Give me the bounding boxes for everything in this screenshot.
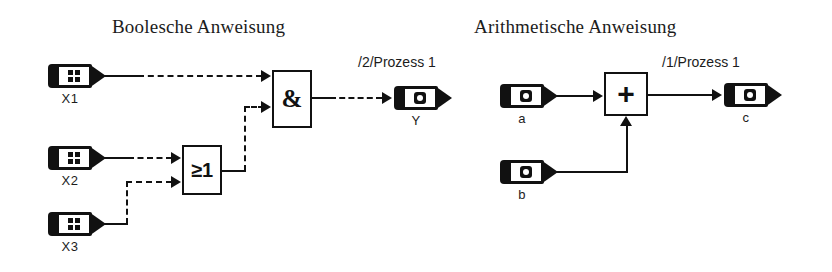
and-gate-block[interactable]: & — [272, 70, 312, 128]
wire-plus-to-c — [648, 94, 714, 96]
add-block[interactable]: + — [604, 72, 648, 116]
input-block-label-x1: X1 — [48, 91, 92, 106]
input-block-body — [48, 64, 92, 88]
wire-x3-stub — [104, 223, 128, 225]
process-tag-c: /1/Prozess 1 — [662, 54, 740, 70]
output-block-label-c: c — [724, 110, 768, 125]
output-block-y[interactable]: Y — [394, 86, 452, 110]
input-block-body — [500, 84, 544, 108]
input-block-x1[interactable]: X1 — [48, 64, 106, 88]
output-block-window — [735, 86, 765, 104]
wire-x1-to-and — [138, 75, 262, 77]
or-gate-block[interactable]: ≥1 — [182, 145, 222, 195]
arrowhead-or-input-1 — [171, 152, 181, 164]
arrowhead-and-input-2 — [261, 101, 271, 113]
or-gate-symbol: ≥1 — [191, 159, 212, 182]
input-block-window — [511, 87, 541, 105]
wire-or-output — [222, 170, 246, 172]
input-block-body — [48, 212, 92, 236]
input-block-x2[interactable]: X2 — [48, 146, 106, 170]
output-block-body — [394, 86, 438, 110]
wire-x2-stub — [104, 157, 130, 159]
grid-icon — [68, 70, 80, 82]
round-icon — [520, 90, 532, 102]
input-block-b[interactable]: b — [500, 160, 558, 184]
input-block-a[interactable]: a — [500, 84, 558, 108]
grid-icon — [68, 218, 80, 230]
wire-b-riser — [626, 126, 628, 172]
wire-x3-riser — [126, 181, 128, 224]
section-title-arithmetic: Arithmetische Anweisung — [474, 16, 677, 38]
round-icon — [744, 89, 756, 101]
arrowhead-and-input-1 — [261, 70, 271, 82]
function-block-diagram-canvas: Boolesche Anweisung Arithmetische Anweis… — [0, 0, 832, 272]
wire-a-to-plus — [556, 95, 594, 97]
input-block-x3[interactable]: X3 — [48, 212, 106, 236]
arrowhead-plus-input-left — [593, 90, 603, 102]
wire-and-to-y — [330, 97, 382, 99]
input-block-window — [59, 67, 89, 85]
arrowhead-plus-input-bottom — [620, 116, 632, 126]
add-block-symbol: + — [617, 82, 635, 106]
round-icon — [414, 92, 426, 104]
wire-or-riser — [244, 106, 246, 171]
output-block-label-y: Y — [394, 113, 438, 128]
arrowhead-y-input — [382, 92, 392, 104]
input-block-window — [511, 163, 541, 181]
input-block-body — [500, 160, 544, 184]
output-block-window — [405, 89, 435, 107]
grid-icon — [68, 152, 80, 164]
input-block-label-x2: X2 — [48, 173, 92, 188]
output-block-c[interactable]: c — [724, 83, 782, 107]
wire-x1-stub — [104, 75, 140, 77]
process-tag-y: /2/Prozess 1 — [358, 54, 436, 70]
and-gate-symbol: & — [282, 85, 303, 113]
input-block-label-x3: X3 — [48, 239, 92, 254]
input-block-window — [59, 215, 89, 233]
input-block-window — [59, 149, 89, 167]
input-block-label-b: b — [500, 187, 544, 202]
arrowhead-c-input — [712, 89, 722, 101]
arrowhead-or-input-2 — [171, 176, 181, 188]
section-title-boolean: Boolesche Anweisung — [112, 16, 285, 38]
round-icon — [520, 166, 532, 178]
output-block-tip — [435, 86, 452, 110]
wire-b-run — [556, 171, 628, 173]
wire-x3-to-or — [126, 181, 172, 183]
input-block-body — [48, 146, 92, 170]
output-block-body — [724, 83, 768, 107]
wire-x2-to-or — [128, 157, 172, 159]
input-block-label-a: a — [500, 111, 544, 126]
output-block-tip — [765, 83, 782, 107]
